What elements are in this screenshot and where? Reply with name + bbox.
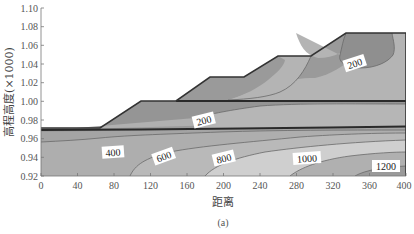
x-tick-label: 160 [180, 180, 195, 191]
x-tick-label: 280 [289, 180, 304, 191]
y-tick-label: 1.04 [21, 59, 39, 70]
y-tick-label: 0.96 [21, 133, 39, 144]
x-tick-label: 400 [397, 180, 412, 191]
y-tick-label: 1.06 [21, 40, 39, 51]
x-tick-label: 320 [326, 180, 341, 191]
y-tick-labels: 0.92 0.94 0.96 0.98 1.00 1.02 1.04 1.06 … [21, 3, 39, 182]
x-tick-labels: 0 40 80 120 160 200 240 280 320 360 400 [39, 180, 412, 191]
y-tick-label: 1.00 [21, 96, 39, 107]
y-axis-title: 高程高度(×1000) [2, 47, 16, 137]
y-tick-label: 0.98 [21, 115, 39, 126]
x-tick-label: 0 [39, 180, 44, 191]
x-tick-label: 40 [73, 180, 83, 191]
x-tick-label: 80 [109, 180, 119, 191]
contour-label-1200: 1200 [376, 161, 396, 172]
y-tick-label: 1.10 [21, 3, 39, 14]
figure-caption: (a) [217, 217, 228, 229]
contour-label-400: 400 [105, 146, 121, 158]
x-tick-label: 120 [143, 180, 158, 191]
x-tick-label: 200 [216, 180, 231, 191]
contour-label-1000: 1000 [297, 152, 318, 164]
y-tick-label: 0.92 [21, 171, 39, 182]
contour-chart: 200 200 400 600 800 1000 1200 [0, 0, 414, 234]
x-tick-label: 360 [362, 180, 377, 191]
y-tick-label: 1.08 [21, 21, 39, 32]
x-axis-title: 距离 [212, 195, 234, 209]
x-tick-label: 240 [253, 180, 268, 191]
y-tick-label: 1.02 [21, 77, 39, 88]
y-tick-label: 0.94 [21, 152, 39, 163]
